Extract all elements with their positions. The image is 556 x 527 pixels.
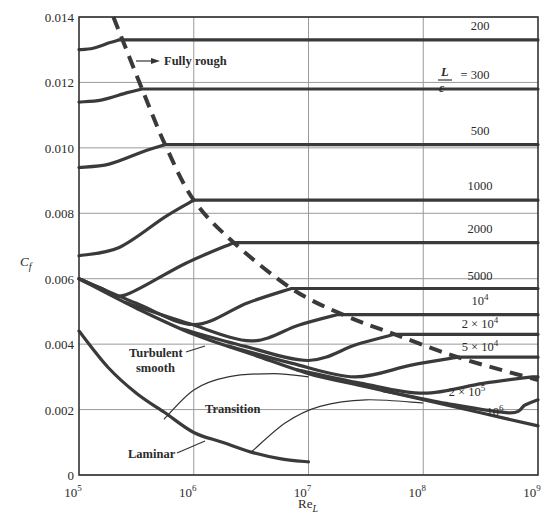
series-label: 1000 xyxy=(468,179,493,193)
series-label: 500 xyxy=(471,124,490,138)
series-label: = 300 xyxy=(461,68,490,82)
series-labels: 200= 3005001000200050001042 × 1045 × 104… xyxy=(449,19,504,419)
fully-rough-annotation: Fully rough xyxy=(136,54,227,68)
series-label: 2 × 105 xyxy=(449,383,486,399)
series-label: 5000 xyxy=(468,269,493,283)
x-tick-label: 108 xyxy=(409,483,427,500)
smooth-label: smooth xyxy=(136,361,175,375)
arrow-icon xyxy=(151,58,160,64)
skin-friction-chart: 00.0020.0040.0060.0080.0100.0120.014 105… xyxy=(0,0,556,527)
y-tick-label: 0.012 xyxy=(45,75,74,90)
y-tick-label: 0.014 xyxy=(45,10,75,25)
y-tick-label: 0.008 xyxy=(45,206,74,221)
y-tick-label: 0.004 xyxy=(45,337,75,352)
transition-label: Transition xyxy=(205,402,260,416)
x-tick-label: 106 xyxy=(179,483,197,500)
series-label: 200 xyxy=(471,19,490,33)
series-label: 2 × 104 xyxy=(462,315,499,331)
y-tick-label: 0.002 xyxy=(45,403,74,418)
x-tick-label: 109 xyxy=(523,483,541,500)
series-label: 5 × 104 xyxy=(462,338,499,354)
y-tick-label: 0.010 xyxy=(45,141,74,156)
turbulent-label: Turbulent xyxy=(129,346,184,360)
y-axis-label: Cf xyxy=(20,254,33,272)
y-tick-label: 0 xyxy=(68,468,75,483)
y-axis-ticks: 00.0020.0040.0060.0080.0100.0120.014 xyxy=(45,10,75,483)
x-axis-label: ReL xyxy=(298,496,318,514)
series-label: 2000 xyxy=(468,222,493,236)
fully-rough-label: Fully rough xyxy=(164,54,227,68)
y-tick-label: 0.006 xyxy=(45,272,75,287)
transition-re-t-3-10-6-curve xyxy=(251,400,423,452)
ratio-numerator: L xyxy=(440,65,449,79)
laminar-label: Laminar xyxy=(128,447,176,461)
series-label: 104 xyxy=(472,292,490,308)
x-tick-label: 105 xyxy=(64,483,82,500)
ratio-denominator: ε xyxy=(439,81,445,95)
